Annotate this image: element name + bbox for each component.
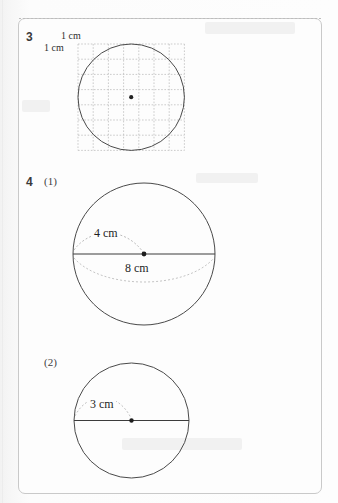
- bleedthrough-mark: [22, 100, 50, 112]
- circle-radius-svg: [69, 358, 194, 483]
- scan-edge-line: [2, 0, 3, 503]
- problem-3-figure: [72, 38, 197, 163]
- center-point-dot: [129, 418, 133, 422]
- circle-radius-diameter-svg: [68, 178, 220, 330]
- problem-3-left-cm-label: 1 cm: [44, 42, 64, 53]
- problem-4-part-2-label: (2): [44, 356, 57, 368]
- problem-4-part-1-label: (1): [44, 175, 57, 187]
- worksheet-page: 3 1 cm 1 cm: [0, 0, 338, 503]
- problem-4-1-diameter-label: 8 cm: [123, 261, 151, 276]
- center-point-dot: [129, 95, 133, 99]
- problem-4-number: 4: [26, 175, 33, 189]
- problem-4-2-radius-label: 3 cm: [88, 397, 116, 412]
- circle-on-grid-svg: [72, 38, 197, 163]
- content-box-top-dotted-border: [19, 18, 321, 19]
- problem-4-part-1-figure: [68, 178, 220, 330]
- problem-4-1-radius-label: 4 cm: [92, 226, 120, 241]
- problem-4-part-2-figure: [69, 358, 194, 483]
- bleedthrough-mark: [205, 22, 295, 34]
- problem-3-number: 3: [26, 30, 33, 44]
- center-point-dot: [142, 252, 147, 257]
